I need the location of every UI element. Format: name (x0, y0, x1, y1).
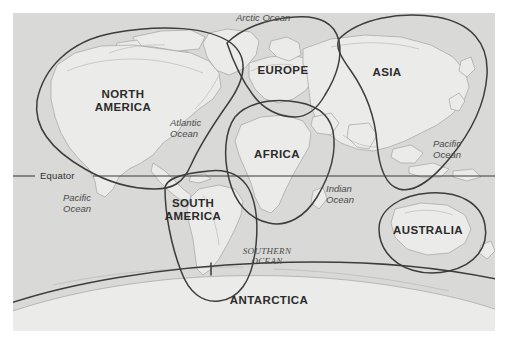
map-graphics (13, 13, 495, 331)
map-canvas: NORTH AMERICA SOUTH AMERICA EUROPE AFRIC… (13, 13, 495, 331)
world-map-page: NORTH AMERICA SOUTH AMERICA EUROPE AFRIC… (0, 0, 509, 347)
